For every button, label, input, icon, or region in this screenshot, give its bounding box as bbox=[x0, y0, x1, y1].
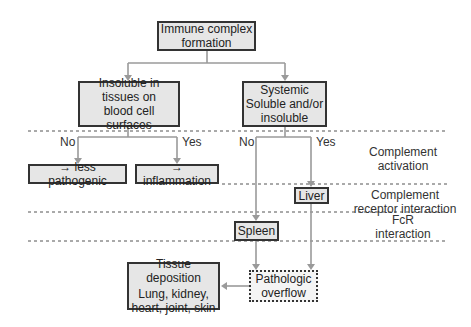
node-text: → inflammation bbox=[137, 160, 217, 188]
node-text: blood cell surfaces bbox=[80, 104, 178, 132]
node-text: insoluble bbox=[261, 111, 308, 125]
node-liver: Liver bbox=[294, 187, 329, 204]
stage-text: interaction bbox=[348, 227, 458, 241]
stage-label-complement-activation: Complement activation bbox=[348, 145, 458, 173]
node-spleen: Spleen bbox=[234, 221, 279, 241]
node-immune-complex-formation: Immune complex formation bbox=[157, 21, 256, 51]
stage-label-complement-receptor: Complement receptor interaction bbox=[349, 188, 461, 216]
branch-label-yes: Yes bbox=[182, 135, 202, 149]
node-systemic: Systemic Soluble and/or insoluble bbox=[242, 81, 327, 127]
node-text: overflow bbox=[261, 286, 306, 300]
node-text: tissues on bbox=[102, 90, 156, 104]
node-text: Lung, kidney, bbox=[138, 287, 209, 301]
node-text: Spleen bbox=[238, 224, 275, 238]
node-text: Immune complex bbox=[161, 22, 252, 36]
node-text: Pathologic bbox=[255, 272, 311, 286]
node-pathologic-overflow: Pathologic overflow bbox=[249, 270, 318, 302]
stage-text: activation bbox=[348, 159, 458, 173]
node-inflammation: → inflammation bbox=[135, 164, 219, 184]
node-text: Soluble and/or bbox=[246, 97, 323, 111]
stage-text: FcR bbox=[348, 213, 458, 227]
stage-text: Complement bbox=[348, 145, 458, 159]
node-text: formation bbox=[181, 36, 231, 50]
node-text: Insoluble in bbox=[99, 76, 160, 90]
stage-label-fcr-interaction: FcR interaction bbox=[348, 213, 458, 241]
branch-label-no: No bbox=[60, 135, 75, 149]
stage-text: Complement bbox=[349, 188, 461, 202]
node-text: Liver bbox=[298, 189, 324, 203]
branch-label-no: No bbox=[239, 135, 254, 149]
node-insoluble-tissues: Insoluble in tissues on blood cell surfa… bbox=[78, 81, 180, 127]
node-text: Systemic bbox=[260, 83, 309, 97]
node-text: Tissue deposition bbox=[129, 257, 218, 285]
branch-label-yes: Yes bbox=[316, 135, 336, 149]
node-less-pathogenic: → less pathogenic bbox=[28, 164, 127, 184]
node-text: heart, joint, skin bbox=[131, 301, 215, 315]
node-tissue-deposition: Tissue deposition Lung, kidney, heart, j… bbox=[127, 262, 220, 310]
node-text: → less pathogenic bbox=[30, 160, 125, 188]
